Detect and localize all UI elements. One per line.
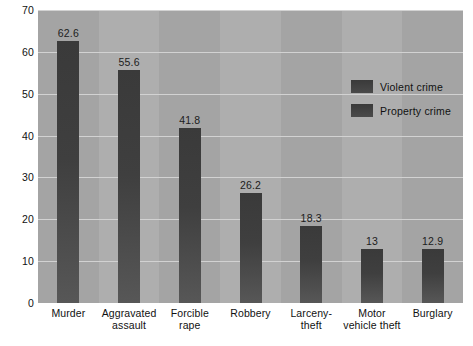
x-axis-tick-line: Forcible: [159, 307, 220, 319]
bar-value-label: 26.2: [240, 179, 261, 191]
bar-value-label: 41.8: [179, 114, 200, 126]
bar[interactable]: 13: [361, 249, 383, 303]
bar-slot: 55.6: [99, 10, 160, 303]
x-axis-tick-line: Larceny-: [281, 307, 342, 319]
y-axis-tick-label: 20: [22, 213, 34, 225]
bar-chart: 706050403020100 62.655.641.826.218.31312…: [0, 0, 473, 346]
x-axis-tick-label: Aggravatedassault: [99, 305, 160, 345]
y-axis-tick-label: 10: [22, 255, 34, 267]
bar[interactable]: 18.3: [300, 226, 322, 303]
x-axis-tick-label: Forciblerape: [159, 305, 220, 345]
y-axis: 706050403020100: [0, 10, 34, 303]
x-axis-tick-line: Murder: [38, 307, 99, 319]
x-axis-tick-label: Larceny-theft: [281, 305, 342, 345]
x-axis-tick-line: assault: [99, 319, 160, 331]
bar-slot: 62.6: [38, 10, 99, 303]
legend-swatch: [351, 80, 373, 93]
y-axis-tick-label: 60: [22, 46, 34, 58]
bar[interactable]: 62.6: [57, 41, 79, 303]
bar-slot: 18.3: [281, 10, 342, 303]
legend-label: Violent crime: [380, 81, 443, 93]
bar-value-label: 12.9: [422, 235, 443, 247]
x-axis-tick-label: Robbery: [220, 305, 281, 345]
x-axis-tick-line: Burglary: [402, 307, 463, 319]
y-axis-tick-label: 0: [28, 297, 34, 309]
bar[interactable]: 41.8: [179, 128, 201, 303]
bar[interactable]: 55.6: [118, 70, 140, 303]
x-axis-tick-line: vehicle theft: [342, 319, 403, 331]
x-axis-tick-line: rape: [159, 319, 220, 331]
bar-slot: 41.8: [159, 10, 220, 303]
legend: Violent crimeProperty crime: [351, 80, 463, 128]
bar[interactable]: 12.9: [422, 249, 444, 303]
legend-label: Property crime: [380, 105, 451, 117]
x-axis-tick-line: Motor: [342, 307, 403, 319]
x-axis-tick-line: Aggravated: [99, 307, 160, 319]
legend-item[interactable]: Violent crime: [351, 80, 463, 93]
x-axis-tick-label: Burglary: [402, 305, 463, 345]
bars-layer: 62.655.641.826.218.31312.9: [38, 10, 463, 303]
x-axis-tick-label: Motorvehicle theft: [342, 305, 403, 345]
legend-swatch: [351, 104, 373, 117]
plot-area: 62.655.641.826.218.31312.9 Violent crime…: [38, 10, 463, 303]
x-axis-tick-line: Robbery: [220, 307, 281, 319]
bar-value-label: 18.3: [301, 212, 322, 224]
bar-value-label: 55.6: [118, 56, 139, 68]
x-axis-tick-label: Murder: [38, 305, 99, 345]
bar-value-label: 62.6: [58, 27, 79, 39]
bar[interactable]: 26.2: [240, 193, 262, 303]
y-axis-tick-label: 30: [22, 171, 34, 183]
bar-value-label: 13: [366, 235, 378, 247]
y-axis-tick-label: 70: [22, 4, 34, 16]
bar-slot: 12.9: [402, 10, 463, 303]
y-axis-tick-label: 50: [22, 88, 34, 100]
legend-item[interactable]: Property crime: [351, 104, 463, 117]
x-axis: MurderAggravatedassaultForciblerapeRobbe…: [38, 305, 463, 345]
bar-slot: 13: [342, 10, 403, 303]
x-axis-tick-line: theft: [281, 319, 342, 331]
bar-slot: 26.2: [220, 10, 281, 303]
y-axis-tick-label: 40: [22, 130, 34, 142]
